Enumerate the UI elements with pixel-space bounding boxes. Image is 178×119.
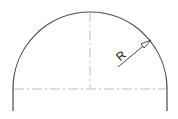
technical-drawing: R: [0, 0, 178, 119]
radius-label: R: [113, 48, 129, 65]
